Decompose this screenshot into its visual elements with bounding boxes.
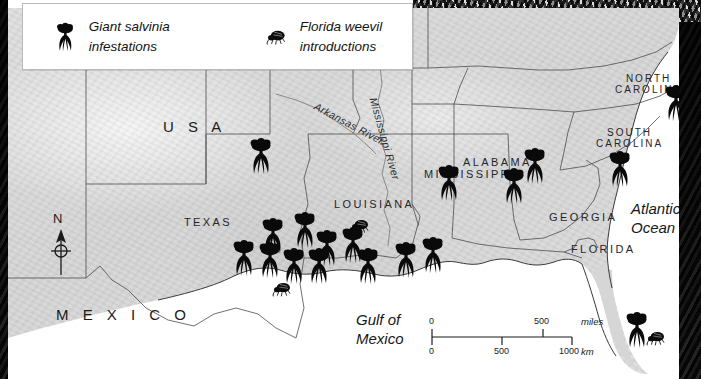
salvinia-marker (306, 246, 332, 290)
salvinia-marker (522, 146, 548, 190)
state-label-louisiana: LOUISIANA (334, 198, 414, 210)
legend-label-weevil: Florida weevil introductions (300, 17, 412, 56)
scale-km-tick-500: 500 (494, 346, 509, 356)
salvinia-marker (607, 149, 633, 193)
country-label-usa: U S A (163, 118, 226, 135)
state-label-florida: FLORIDA (571, 243, 635, 255)
scale-km-unit: km (581, 346, 594, 357)
compass-rose: N (44, 213, 78, 279)
scale-km-tick-0: 0 (429, 346, 434, 356)
legend-label-salvinia: Giant salvinia infestations (89, 17, 194, 56)
salvinia-marker (355, 246, 381, 290)
state-label-georgia: GEORGIA (549, 211, 617, 223)
salvinia-plant-icon (55, 14, 76, 60)
compass-north-label: N (53, 211, 62, 226)
salvinia-marker (420, 235, 446, 279)
weevil-marker (350, 217, 370, 239)
scale-miles-tick-500: 500 (534, 316, 549, 326)
legend-item-weevil: Florida weevil introductions (266, 17, 412, 56)
salvinia-marker (257, 240, 283, 284)
map-legend: Giant salvinia infestations Florida weev (22, 3, 413, 70)
state-label-south-carolina: SOUTH CAROLINA (596, 127, 663, 149)
salvinia-marker (248, 136, 274, 180)
salvinia-marker (393, 240, 419, 284)
salvinia-marker (231, 238, 257, 282)
scale-miles-unit: miles (581, 316, 603, 327)
weevil-marker (272, 280, 292, 302)
country-label-mexico: M E X I C O (56, 306, 191, 323)
scale-km-tick-1000: 1000 (559, 346, 579, 356)
water-label-gulf-of-mexico: Gulf of Mexico (356, 311, 404, 349)
legend-item-salvinia: Giant salvinia infestations (55, 14, 194, 60)
weevil-marker (646, 329, 666, 351)
photo-edge-left (0, 0, 8, 379)
scale-miles-tick-0: 0 (429, 316, 434, 326)
scale-bar: 0 500 miles 0 500 1000 km (426, 314, 586, 360)
salvinia-marker (436, 163, 462, 207)
water-label-atlantic-ocean: Atlantic Ocean (631, 200, 679, 238)
weevil-beetle-icon (266, 24, 287, 50)
photo-edge-right (679, 0, 701, 379)
salvinia-marker (663, 83, 679, 127)
map-figure: U S AM E X I C OTEXASLOUISIANAMISSISSIPP… (0, 0, 701, 379)
state-label-texas: TEXAS (184, 216, 232, 228)
